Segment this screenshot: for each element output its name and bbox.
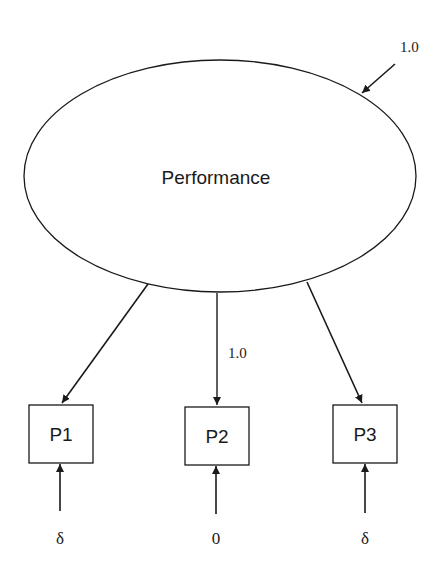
indicator-node-p1: P1 xyxy=(29,405,93,463)
latent-variance-path: 1.0 xyxy=(362,39,419,93)
indicator-label-p1: P1 xyxy=(49,424,72,445)
error-path-p2: 0 xyxy=(212,466,221,548)
error-label-p3: δ xyxy=(361,529,369,548)
loading-label-p2: 1.0 xyxy=(228,345,247,361)
error-label-p2: 0 xyxy=(212,529,221,548)
latent-label: Performance xyxy=(162,167,271,188)
error-label-p1: δ xyxy=(56,529,64,548)
error-path-p3: δ xyxy=(361,464,369,548)
variance-arrow xyxy=(362,64,395,93)
loading-path-p1 xyxy=(62,284,148,403)
loading-path-p2: 1.0 xyxy=(217,293,247,405)
indicator-node-p2: P2 xyxy=(185,407,249,465)
variance-label: 1.0 xyxy=(400,39,419,55)
indicator-label-p2: P2 xyxy=(205,426,228,447)
loading-arrow-p3 xyxy=(307,282,362,403)
loading-path-p3 xyxy=(307,282,362,403)
latent-node-performance: Performance xyxy=(24,60,416,292)
indicator-label-p3: P3 xyxy=(353,424,376,445)
error-path-p1: δ xyxy=(56,464,64,548)
diagram-canvas: Performance 1.0 1.0 P1 P2 P3 δ 0 δ xyxy=(0,0,443,585)
loading-arrow-p1 xyxy=(62,284,148,403)
indicator-node-p3: P3 xyxy=(333,405,397,463)
